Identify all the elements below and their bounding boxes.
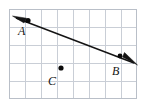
point-C-label: C (48, 74, 57, 88)
point-A (25, 18, 30, 23)
point-B-dot (118, 54, 123, 59)
figure-canvas: A B C (0, 0, 146, 111)
geometry-figure: A B C (0, 0, 146, 111)
point-B-label: B (112, 64, 120, 78)
point-C (58, 65, 63, 70)
point-B (118, 54, 123, 59)
point-A-dot (25, 18, 30, 23)
point-A-label: A (17, 24, 26, 38)
point-C-dot (58, 65, 63, 70)
